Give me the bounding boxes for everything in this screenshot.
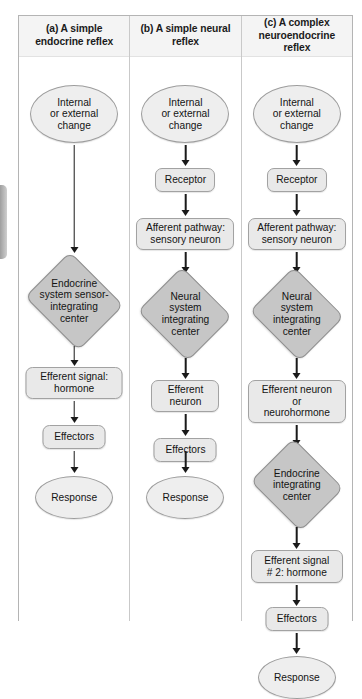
line: change [280,120,313,131]
line: integrating [273,479,321,490]
node-b-response: Response [146,476,224,519]
figure-frame: (a) A simple endocrine reflex Internal o… [18,15,353,621]
line: neurohormone [264,407,330,418]
line: Endocrine [274,468,320,479]
node-c-response: Response [258,656,336,699]
line: Neural [282,291,312,302]
arrow-b-efferent-neuron-to-effectors [181,414,190,436]
line: Internal [57,97,91,108]
node-c-neural-integrating-center-label: Neural system integrating center [271,291,323,337]
node-a-efferent-signal-label: Efferent signal: hormone [38,371,110,394]
node-c-stimulus: Internal or external change [253,85,341,143]
node-b-stimulus: Internal or external change [141,85,229,143]
arrow-a-effectors-to-response [70,451,79,473]
line: Efferent [168,384,204,395]
column-a-header-text: (a) A simple endocrine reflex [35,23,113,48]
column-a-simple-endocrine-reflex: (a) A simple endocrine reflex Internal o… [19,16,129,621]
arrow-a-efferent-signal-to-effectors [70,401,79,423]
node-b-integrating-center: Neural system integrating center [136,271,234,357]
line: hormone [54,383,94,394]
node-c-afferent-pathway: Afferent pathway: sensory neuron [248,218,346,250]
arrow-b-integrating-center-to-efferent-neuron [181,358,190,379]
node-b-efferent-neuron: Efferent neuron [151,380,219,412]
column-a-header-line-2: endocrine reflex [35,36,113,47]
line: sensory neuron [262,234,332,245]
column-c-header-line-2: neuroendocrine reflex [259,30,335,54]
line: or [292,396,301,407]
node-c-effectors-label: Effectors [275,613,319,625]
line: change [57,120,90,131]
node-c-efferent-signal-2-label: Efferent signal # 2: hormone [262,555,331,578]
arrow-b-stimulus-to-receptor [181,145,190,166]
arrow-c-endocrine-integrating-center-to-efferent-signal-2 [292,527,301,549]
node-b-receptor: Receptor [155,168,215,192]
arrow-c-effectors-to-response [292,633,301,654]
line: Efferent neuron [262,384,332,395]
line: system [169,302,201,313]
node-a-efferent-signal: Efferent signal: hormone [26,367,123,399]
arrow-c-stimulus-to-receptor [292,145,301,166]
line: Afferent pathway: [146,222,225,233]
node-a-effectors-label: Effectors [52,431,96,443]
column-b-header-text: (b) A simple neural reflex [140,23,230,48]
node-a-effectors: Effectors [43,425,106,449]
arrow-c-receptor-to-afferent-pathway [292,194,301,216]
node-c-efferent-signal-2: Efferent signal # 2: hormone [251,550,343,583]
line: center [171,326,199,337]
column-a-body: Internal or external change Endocrine sy… [19,57,129,622]
arrow-a-stimulus-to-integrating-center [70,145,79,253]
node-c-endocrine-integrating-center: Endocrine integrating center [248,443,346,527]
node-b-stimulus-label: Internal or external change [159,97,211,132]
node-c-afferent-pathway-label: Afferent pathway: sensory neuron [255,222,338,245]
column-b-header: (b) A simple neural reflex [130,16,240,57]
line: Neural [170,291,200,302]
node-c-receptor-label: Receptor [274,174,319,186]
line: or external [273,108,321,119]
arrow-b-effectors-to-response [181,451,190,473]
line: Efferent signal [264,555,329,566]
column-a-header-line-1: (a) A simple [46,23,102,34]
node-c-efferent-neuron: Efferent neuron or neurohormone [248,380,346,423]
line: center [283,491,311,502]
line: center [283,326,311,337]
node-a-response: Response [35,476,113,519]
node-a-response-label: Response [49,492,99,504]
node-c-response-label: Response [272,672,322,684]
node-b-response-label: Response [161,492,211,504]
node-b-afferent-pathway: Afferent pathway: sensory neuron [136,218,234,250]
column-b-body: Internal or external change Receptor [130,57,240,622]
line: or external [161,108,209,119]
node-a-stimulus-label: Internal or external change [48,97,100,132]
line: system sensor- [40,289,109,300]
node-c-efferent-neuron-label: Efferent neuron or neurohormone [260,384,334,419]
line: system [281,302,313,313]
line: sensory neuron [150,234,220,245]
line: or external [50,108,98,119]
line: Efferent signal: [40,371,108,382]
arrow-b-receptor-to-afferent-pathway [181,194,190,216]
node-a-integrating-center: Endocrine system sensor- integrating cen… [22,257,126,345]
left-edge-tab [0,185,7,259]
arrow-c-neural-integrating-center-to-efferent-neuron [292,358,301,379]
line: integrating [50,301,98,312]
column-b-header-line-1: (b) A simple neural [140,23,230,34]
node-c-stimulus-label: Internal or external change [271,97,323,132]
line: Afferent pathway: [257,222,336,233]
node-a-stimulus: Internal or external change [30,85,118,143]
column-c-complex-neuroendocrine-reflex: (c) A complex neuroendocrine reflex Inte… [241,16,352,621]
node-a-integrating-center-label: Endocrine system sensor- integrating cen… [38,278,111,324]
line: # 2: hormone [267,567,327,578]
line: neuron [170,396,202,407]
column-a-header: (a) A simple endocrine reflex [19,16,129,57]
columns-container: (a) A simple endocrine reflex Internal o… [19,16,352,621]
column-c-header-line-1: (c) A complex [264,17,329,28]
node-b-receptor-label: Receptor [163,174,208,186]
node-b-afferent-pathway-label: Afferent pathway: sensory neuron [144,222,227,245]
node-c-receptor: Receptor [267,168,327,192]
node-c-effectors: Effectors [265,607,328,631]
column-c-header-text: (c) A complex neuroendocrine reflex [246,17,348,55]
line: Internal [280,97,314,108]
line: Internal [168,97,202,108]
node-c-endocrine-integrating-center-label: Endocrine integrating center [271,468,323,503]
line: center [60,313,88,324]
